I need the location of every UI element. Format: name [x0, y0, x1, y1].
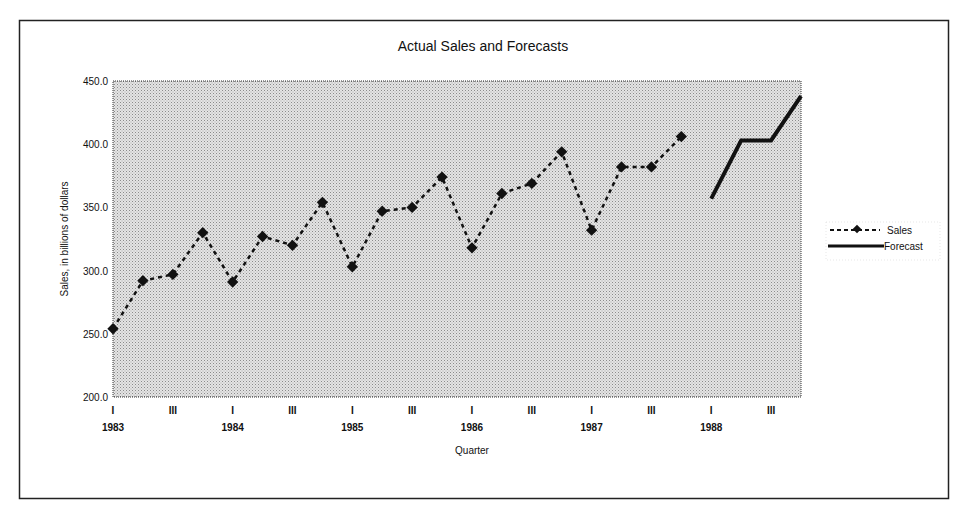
x-tick-quarter: I [231, 405, 234, 416]
x-tick-year: 1983 [102, 422, 125, 433]
forecast-data-point [711, 198, 712, 199]
x-tick-quarter: I [710, 405, 713, 416]
x-tick-quarter: I [112, 405, 115, 416]
y-tick-label: 200.0 [83, 392, 108, 403]
x-tick-quarter: III [288, 405, 297, 416]
chart-title: Actual Sales and Forecasts [398, 38, 568, 54]
legend: Sales Forecast [826, 222, 940, 260]
y-tick-label: 400.0 [83, 139, 108, 150]
legend-sales-label: Sales [887, 225, 912, 236]
x-tick-quarter: III [647, 405, 656, 416]
x-tick-quarter: III [528, 405, 537, 416]
legend-forecast-label: Forecast [884, 241, 923, 252]
x-tick-year: 1985 [341, 422, 364, 433]
x-tick-quarter: III [169, 405, 178, 416]
x-tick-year: 1988 [700, 422, 723, 433]
y-tick-label: 300.0 [83, 266, 108, 277]
chart: Actual Sales and Forecasts 200.0250.0300… [0, 0, 962, 517]
forecast-data-point [771, 140, 772, 141]
x-tick-year: 1987 [580, 422, 603, 433]
x-tick-quarter: III [408, 405, 417, 416]
x-tick-quarter: I [471, 405, 474, 416]
y-tick-label: 350.0 [83, 202, 108, 213]
forecast-data-point [741, 140, 742, 141]
x-tick-quarter: I [590, 405, 593, 416]
y-tick-label: 450.0 [83, 76, 108, 87]
x-tick-quarter: I [351, 405, 354, 416]
forecast-data-point [801, 96, 802, 97]
x-axis-label: Quarter [455, 445, 490, 456]
x-tick-year: 1986 [461, 422, 484, 433]
x-tick-quarter: III [767, 405, 776, 416]
plot-area [113, 81, 801, 397]
y-axis-label: Sales, in billions of dollars [59, 181, 70, 296]
x-tick-year: 1984 [222, 422, 245, 433]
y-tick-label: 250.0 [83, 329, 108, 340]
